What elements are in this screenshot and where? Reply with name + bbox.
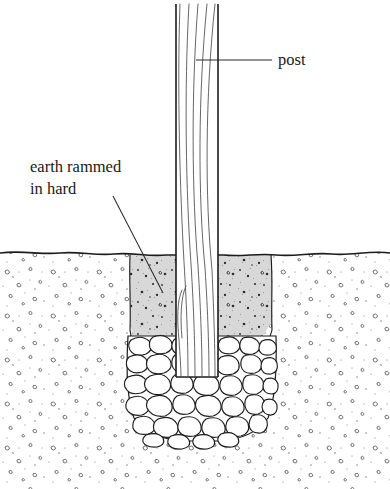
diagram-canvas: post earth rammed in hard <box>0 0 390 489</box>
post-footing-diagram: post earth rammed in hard <box>0 0 390 489</box>
label-earth-rammed-line1: earth rammed <box>30 157 122 176</box>
label-post: post <box>278 50 306 69</box>
label-earth-rammed-line2: in hard <box>30 179 77 198</box>
